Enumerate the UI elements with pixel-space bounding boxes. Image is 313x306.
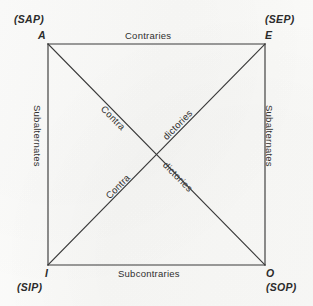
corner-a-proposition-form: (SAP) <box>14 14 44 25</box>
label-subalternates-right: Subalternates <box>265 105 275 167</box>
corner-o-letter: O <box>266 268 274 279</box>
label-subcontraries: Subcontraries <box>118 269 180 279</box>
corner-o-proposition-form: (SOP) <box>266 282 297 293</box>
corner-i-proposition-form: (SIP) <box>17 282 42 293</box>
corner-e-letter: E <box>265 30 272 41</box>
label-subalternates-left: Subalternates <box>33 105 43 167</box>
corner-i-letter: I <box>45 268 48 279</box>
label-contraries: Contraries <box>125 31 171 41</box>
corner-e-proposition-form: (SEP) <box>265 14 295 25</box>
square-of-opposition-diagram: (SAP) A (SEP) E I (SIP) O (SOP) Contrari… <box>0 0 313 306</box>
corner-a-letter: A <box>38 30 46 41</box>
